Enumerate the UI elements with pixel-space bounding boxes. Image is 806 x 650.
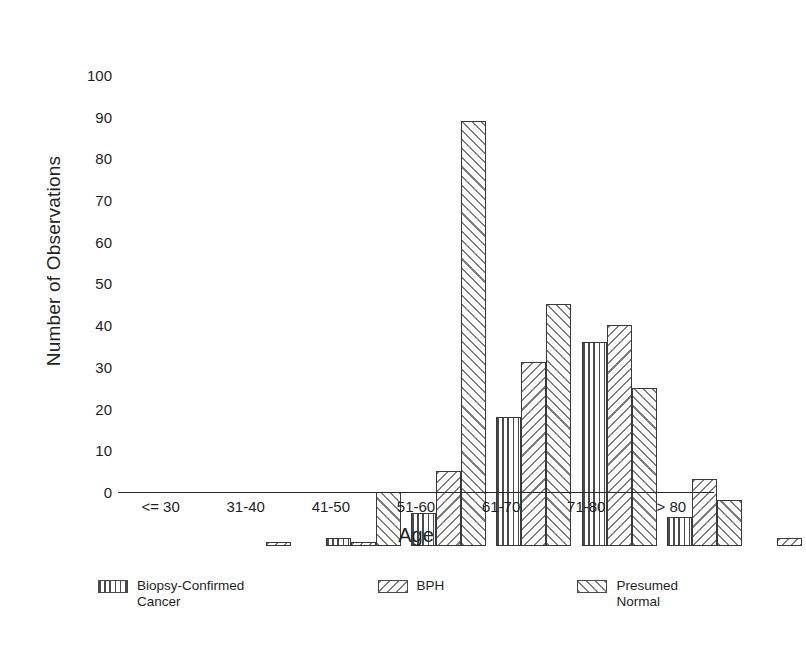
y-axis-tick-label: 50 [70,275,112,292]
x-axis-title: Age [118,524,714,547]
y-axis-tick-labels: 0102030405060708090100 [62,0,112,650]
legend-swatch-icon [98,580,128,593]
bar [521,362,546,546]
y-axis-tick-label: 90 [70,108,112,125]
legend-label: Presumed Normal [616,578,678,610]
y-axis-tick-label: 70 [70,192,112,209]
x-axis-tick-label: > 80 [629,498,714,515]
y-axis-tick-label: 0 [70,484,112,501]
y-axis-tick-label: 100 [70,66,112,83]
x-axis-line [118,492,714,493]
legend-label: Biopsy-Confirmed Cancer [137,578,244,610]
x-axis-tick-label: <= 30 [118,498,203,515]
y-axis-tick-label: 10 [70,442,112,459]
bar-group [662,108,747,546]
bar [632,388,657,547]
legend-entry: Biopsy-Confirmed Cancer [98,578,244,610]
x-axis-tick-label: 31-40 [203,498,288,515]
legend-entry: Presumed Normal [577,578,678,610]
bar [717,500,742,546]
x-axis-tick-label: 41-50 [288,498,373,515]
bar [777,538,802,546]
x-axis-tick-label: 61-70 [459,498,544,515]
y-axis-tick-label: 40 [70,317,112,334]
bar-group [491,108,576,546]
bar-group [321,108,406,546]
legend-label: BPH [417,578,445,594]
y-axis-tick-label: 30 [70,358,112,375]
legend-swatch-icon [378,580,408,593]
bar-group [406,108,491,546]
x-axis-tick-label: 51-60 [373,498,458,515]
chart-legend: Biopsy-Confirmed CancerBPHPresumed Norma… [98,578,678,610]
y-axis-tick-label: 60 [70,233,112,250]
bar [582,342,607,546]
bar [461,121,486,546]
y-axis-tick-label: 80 [70,150,112,167]
legend-entry: BPH [378,578,445,610]
bar-group [577,108,662,546]
y-axis-tick-label: 20 [70,400,112,417]
legend-swatch-icon [577,580,607,593]
bar-group [747,108,806,546]
bar-groups [236,108,806,546]
bar-group [236,108,321,546]
x-axis-tick-labels: <= 3031-4041-5051-6061-7071-80> 80 [118,498,714,515]
x-axis-tick-label: 71-80 [544,498,629,515]
plot-area [118,54,714,492]
